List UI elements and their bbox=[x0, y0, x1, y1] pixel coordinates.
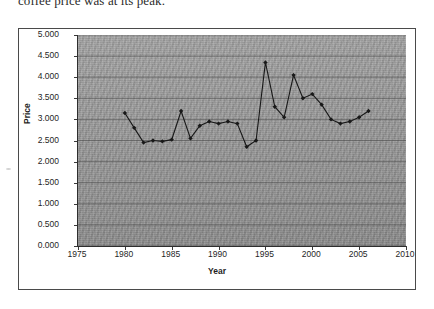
y-tick-label: 3.000 bbox=[38, 113, 59, 123]
data-point bbox=[301, 96, 305, 100]
data-point bbox=[338, 121, 342, 125]
y-tick-label: 2.000 bbox=[38, 156, 59, 166]
y-tick-label: 4.500 bbox=[38, 50, 59, 60]
y-tick-label: 3.500 bbox=[38, 92, 59, 102]
x-axis-line bbox=[77, 246, 406, 247]
data-point bbox=[179, 109, 183, 113]
data-point bbox=[226, 119, 230, 123]
gridlines bbox=[78, 35, 406, 246]
data-point bbox=[216, 121, 220, 125]
x-tick-label: 1985 bbox=[161, 249, 180, 259]
plot-area bbox=[78, 35, 406, 246]
y-axis-line bbox=[77, 35, 78, 247]
x-tick-label: 2010 bbox=[396, 249, 415, 259]
price-markers bbox=[123, 60, 371, 149]
y-tick-label: 1.000 bbox=[38, 198, 59, 208]
x-tick-label: 1990 bbox=[208, 249, 227, 259]
price-line bbox=[125, 62, 369, 146]
caption-text: coffee price was at its peak. bbox=[18, 0, 165, 9]
y-tick-label: 5.000 bbox=[38, 29, 59, 39]
x-tick-label: 1995 bbox=[255, 249, 274, 259]
x-axis-tick-labels: 19751980198519901995200020052010 bbox=[18, 249, 416, 263]
y-axis-title: Price bbox=[22, 103, 32, 124]
data-point bbox=[160, 139, 164, 143]
data-point bbox=[235, 121, 239, 125]
scan-artifact bbox=[6, 168, 11, 170]
y-tick-label: 0.500 bbox=[38, 219, 59, 229]
data-point bbox=[348, 119, 352, 123]
x-tick-label: 2000 bbox=[302, 249, 321, 259]
x-tick-label: 2005 bbox=[349, 249, 368, 259]
data-point bbox=[151, 138, 155, 142]
data-point bbox=[263, 60, 267, 64]
x-tick-label: 1975 bbox=[68, 249, 87, 259]
y-tick-label: 4.000 bbox=[38, 71, 59, 81]
data-point bbox=[170, 137, 174, 141]
x-tick-label: 1980 bbox=[114, 249, 133, 259]
data-point bbox=[207, 119, 211, 123]
line-chart-svg bbox=[78, 35, 406, 246]
x-axis-title: Year bbox=[18, 266, 416, 276]
y-tick-label: 1.500 bbox=[38, 177, 59, 187]
y-tick-label: 2.500 bbox=[38, 135, 59, 145]
data-point bbox=[291, 73, 295, 77]
